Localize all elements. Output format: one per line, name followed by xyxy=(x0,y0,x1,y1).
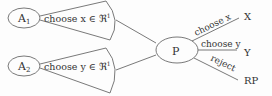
terminal-y: Y xyxy=(243,47,251,58)
node-p-label: P xyxy=(172,45,180,58)
edge-a1-p xyxy=(116,20,156,43)
fan-a1-label: choose x ∈ ℜ1 xyxy=(44,12,111,24)
node-a1-label: A1 xyxy=(17,12,30,26)
fan-a2-label: choose y ∈ ℜ1 xyxy=(44,60,111,72)
terminal-rp: RP xyxy=(244,75,259,86)
node-a2-label: A2 xyxy=(17,60,30,74)
game-tree-diagram: A1 A2 P choose x ∈ ℜ1 choose y ∈ ℜ1 choo… xyxy=(0,0,272,96)
edge-label-reject: reject xyxy=(209,53,237,74)
terminal-x: X xyxy=(244,11,252,22)
edge-a2-p xyxy=(116,55,156,70)
edge-label-choose-y: choose y xyxy=(201,39,241,49)
